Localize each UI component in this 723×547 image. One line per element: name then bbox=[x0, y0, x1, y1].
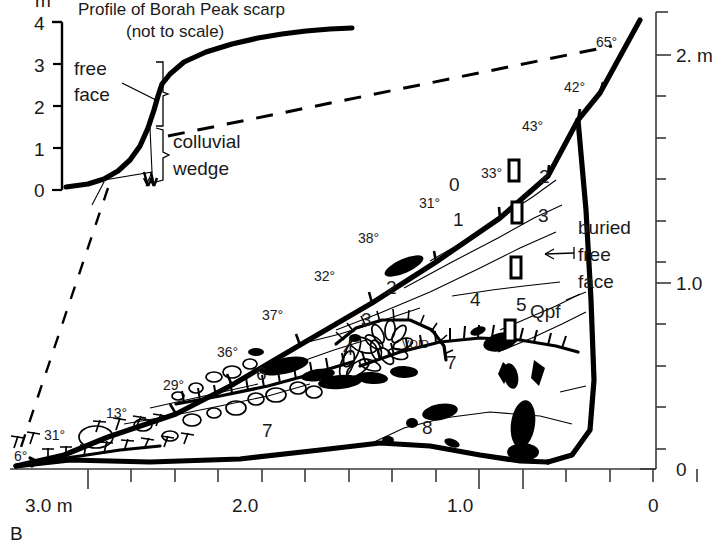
unit-label: 5 bbox=[516, 294, 527, 315]
inset-y-tick-label: 1 bbox=[34, 139, 45, 160]
dip-angle-label: 31° bbox=[44, 427, 65, 443]
buried-free-face-line2: free bbox=[578, 244, 611, 265]
inset-y-tick-label: 4 bbox=[34, 13, 45, 34]
unit-label: 8 bbox=[422, 417, 433, 438]
dip-angle-label: 31° bbox=[419, 195, 440, 211]
dip-angle-label: 65° bbox=[596, 34, 617, 50]
dip-angle-label: 38° bbox=[358, 230, 379, 246]
dip-angle-label: 36° bbox=[217, 344, 238, 360]
buried-free-face-line1: buried bbox=[578, 217, 631, 238]
inset-profile: m 4 3 2 1 0 free face colluvial wedge Pr… bbox=[34, 0, 352, 205]
unit-label: 4 bbox=[343, 338, 354, 359]
inset-colluvial-line2: wedge bbox=[172, 158, 229, 179]
right-axis-label-top: 2. m bbox=[676, 45, 713, 66]
dip-angle-label: 32° bbox=[314, 268, 335, 284]
inset-y-tick-label: 3 bbox=[34, 55, 45, 76]
dip-angle-label: 13° bbox=[106, 405, 127, 421]
right-axis: 2. m 1.0 0 bbox=[640, 12, 713, 480]
inset-title-line2: (not to scale) bbox=[126, 22, 224, 41]
inset-free-face-line1: free bbox=[74, 58, 107, 79]
unit-label: 2 bbox=[539, 166, 550, 187]
inset-y-tick-label: 2 bbox=[34, 97, 45, 118]
unit-label: 4 bbox=[470, 289, 481, 310]
dip-angle-label: 43° bbox=[522, 118, 543, 134]
dip-angle-label: 6° bbox=[14, 448, 27, 464]
inset-y-tick-label: 0 bbox=[34, 180, 45, 201]
buried-free-face-callout: buried free face bbox=[545, 217, 631, 292]
inset-title-line1: Profile of Borah Peak scarp bbox=[78, 0, 285, 19]
inset-y-ticks bbox=[52, 64, 62, 190]
bottom-axis-label-2: 2.0 bbox=[232, 495, 258, 516]
panel-label: B bbox=[10, 523, 23, 544]
dip-angle-label: 29° bbox=[163, 377, 184, 393]
inset-free-face-line2: face bbox=[74, 84, 110, 105]
right-axis-label-mid: 1.0 bbox=[676, 273, 702, 294]
void-label: VOID bbox=[402, 338, 429, 350]
figure-borah-peak-trench-log: 2. m 1.0 0 3.0 m 2.0 1.0 0 bbox=[0, 0, 723, 547]
projected-surface-dashed-line bbox=[168, 46, 612, 136]
inset-fault-arrows bbox=[144, 172, 157, 186]
dip-angle-label: 37° bbox=[262, 307, 283, 323]
bottom-axis-label-1: 3.0 m bbox=[25, 495, 73, 516]
bottom-axis: 3.0 m 2.0 1.0 0 bbox=[10, 469, 697, 516]
inset-y-axis-unit: m bbox=[35, 0, 51, 11]
trench-log-svg: 2. m 1.0 0 3.0 m 2.0 1.0 0 bbox=[0, 0, 723, 547]
bottom-axis-ticks bbox=[88, 469, 697, 489]
unit-label: 1 bbox=[453, 209, 464, 230]
bottom-axis-label-3: 1.0 bbox=[447, 495, 473, 516]
right-axis-label-bottom: 0 bbox=[676, 459, 687, 480]
unit-label: 3 bbox=[361, 309, 372, 330]
dip-angle-label: 33° bbox=[481, 165, 502, 181]
qpf-label: Qpf bbox=[530, 301, 561, 322]
inset-colluvial-line1: colluvial bbox=[173, 131, 241, 152]
right-axis-ticks bbox=[656, 55, 671, 449]
unit-label: 6 bbox=[256, 363, 267, 384]
unit-label: 7 bbox=[262, 420, 273, 441]
projected-fault-dashed-line bbox=[18, 188, 108, 456]
unit-label: 3 bbox=[538, 205, 549, 226]
unit-label: 0 bbox=[449, 174, 460, 195]
unit-label: 7 bbox=[446, 352, 457, 373]
unit-label: 2 bbox=[386, 277, 397, 298]
buried-free-face-line3: face bbox=[578, 271, 614, 292]
bottom-axis-label-4: 0 bbox=[648, 495, 659, 516]
dip-angle-label: 42° bbox=[564, 79, 585, 95]
